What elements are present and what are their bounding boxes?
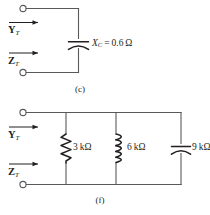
admittance-label-f: YT: [8, 130, 20, 142]
admittance-subscript-f: T: [16, 133, 20, 141]
impedance-symbol-f: Z: [8, 166, 15, 177]
admittance-symbol-f: Y: [8, 129, 16, 140]
terminal-bottom-f[interactable]: [20, 181, 26, 187]
figure-root: YT ZT XC = 0.6 Ω (c) YT ZT 3 kΩ 6 kΩ 9 k…: [0, 0, 210, 215]
impedance-symbol-c: Z: [8, 55, 15, 66]
resistor-3k-icon: [61, 134, 71, 163]
impedance-subscript-c: T: [15, 59, 19, 67]
admittance-symbol-c: Y: [8, 24, 16, 35]
terminal-top-f[interactable]: [20, 109, 26, 115]
admittance-label-c: YT: [8, 25, 20, 37]
terminal-top-c[interactable]: [20, 5, 26, 11]
capacitor-9k-label: 9 kΩ: [192, 143, 210, 153]
caption-c: (c): [0, 85, 160, 94]
circuit-c-group: [9, 5, 89, 75]
terminal-bottom-c[interactable]: [20, 69, 26, 75]
caption-f: (f): [20, 196, 180, 205]
inductor-6k-label: 6 kΩ: [127, 143, 145, 153]
circuit-f-group: [9, 109, 191, 187]
capacitor-9k-unit: kΩ: [199, 142, 210, 152]
impedance-subscript-f: T: [15, 170, 19, 178]
resistor-3k-unit: kΩ: [80, 142, 92, 152]
capacitor-xc-unit: Ω: [125, 38, 132, 48]
capacitor-xc-label: XC = 0.6 Ω: [92, 39, 132, 49]
impedance-label-f: ZT: [8, 167, 19, 179]
resistor-3k-label: 3 kΩ: [73, 143, 91, 153]
circuit-diagram-canvas: [0, 0, 210, 215]
inductor-6k-icon: [116, 134, 121, 163]
capacitor-xc-value: 0.6: [112, 38, 124, 48]
inductor-6k-unit: kΩ: [134, 142, 146, 152]
impedance-label-c: ZT: [8, 56, 19, 68]
admittance-subscript-c: T: [16, 29, 20, 37]
